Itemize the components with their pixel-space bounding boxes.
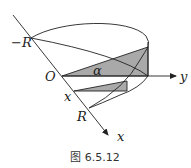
cross-section-large xyxy=(62,47,148,76)
origin-label: O xyxy=(45,69,56,84)
x-point-label: x xyxy=(64,89,72,104)
top-ellipse-arc xyxy=(31,23,149,47)
r-point-label: R xyxy=(76,109,87,124)
solid-wedge-diagram: −R O α y x R x 图 6.5.12 xyxy=(0,0,191,168)
figure-caption: 图 6.5.12 xyxy=(70,151,119,164)
y-axis-label: y xyxy=(179,69,188,84)
cross-section-small xyxy=(74,81,127,91)
neg-r-label: −R xyxy=(11,35,32,50)
x-axis-label: x xyxy=(117,129,125,144)
alpha-label: α xyxy=(93,63,102,78)
